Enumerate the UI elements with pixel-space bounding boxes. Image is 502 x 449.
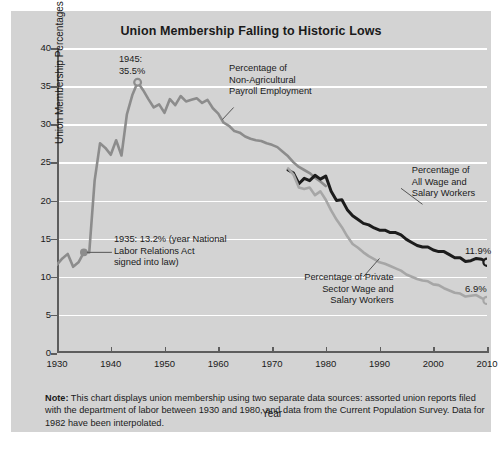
y-tick-label: 0 (25, 347, 51, 358)
x-tick-label: 1980 (306, 358, 346, 369)
y-tick-label: 35 (25, 80, 51, 91)
y-tick (51, 353, 57, 355)
series-label-nonag: Percentage of Non-Agricultural Payroll E… (229, 63, 312, 98)
series-label-private: Percentage of Private Sector Wage and Sa… (304, 272, 393, 307)
peak-1945: 1945: 35.5% (119, 54, 145, 77)
y-tick-label: 20 (25, 195, 51, 206)
plot-area: 0510152025303540 19301940195019601970198… (57, 48, 487, 353)
x-tick-label: 2010 (467, 358, 502, 369)
data-point-marker (134, 79, 141, 86)
data-point-marker (483, 259, 487, 266)
y-tick-label: 15 (25, 233, 51, 244)
y-tick-label: 25 (25, 156, 51, 167)
x-tick-label: 2000 (413, 358, 453, 369)
annotation-leader-line (222, 107, 233, 119)
data-point-marker (483, 297, 487, 304)
x-tick (487, 347, 489, 353)
nlra-1935: 1935: 13.2% (year National Labor Relatio… (114, 234, 227, 269)
x-tick-label: 1950 (145, 358, 185, 369)
data-point-marker (81, 250, 87, 256)
chart-title: Union Membership Falling to Historic Low… (11, 24, 491, 38)
x-tick-label: 1930 (37, 358, 77, 369)
y-tick-label: 5 (25, 309, 51, 320)
note-prefix: Note: (45, 393, 68, 403)
note-body: This chart displays union membership usi… (45, 393, 485, 428)
x-tick-label: 1960 (198, 358, 238, 369)
endpoint-private: 6.9% (465, 283, 487, 294)
endpoint-allwage: 11.9% (465, 245, 491, 256)
x-tick-label: 1940 (91, 358, 131, 369)
y-tick-label: 10 (25, 271, 51, 282)
y-tick-label: 40 (25, 42, 51, 53)
chart-note: Note: This chart displays union membersh… (45, 392, 485, 429)
y-axis-label: Union Membership Percentages (54, 1, 65, 144)
series-label-allwage: Percentage of All Wage and Salary Worker… (412, 165, 475, 200)
chart-card: Union Membership Falling to Historic Low… (11, 11, 491, 432)
y-tick-label: 30 (25, 118, 51, 129)
x-tick-label: 1990 (360, 358, 400, 369)
x-tick-label: 1970 (252, 358, 292, 369)
